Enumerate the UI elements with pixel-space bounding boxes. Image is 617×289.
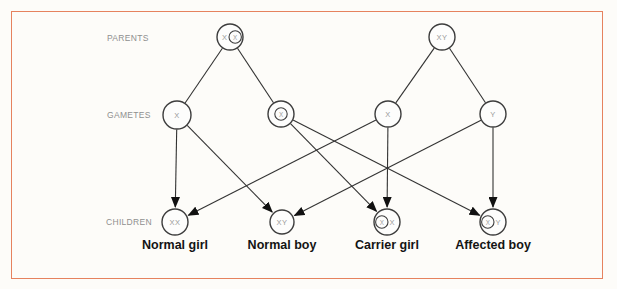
parent-to-gamete-line	[238, 48, 274, 102]
mother-circle	[217, 24, 243, 50]
child-caption: Normal boy	[248, 238, 317, 252]
node-gamete-x-father: X	[375, 101, 401, 127]
gamete-to-child-arrow	[187, 125, 272, 212]
allele-label: X	[385, 110, 390, 119]
pedigree-diagram-svg: XXXYXXXYXXNormal girlXYNormal boyXXCarri…	[0, 0, 617, 289]
allele-label: X	[174, 111, 179, 120]
gamete-to-child-arrow	[188, 120, 376, 215]
allele-label: X	[389, 218, 394, 227]
allele-label: Y	[495, 218, 500, 227]
gamete-to-child-arrow	[293, 120, 480, 215]
child-affected-boy-circle	[480, 209, 506, 235]
gamete-to-child-arrow	[291, 124, 377, 212]
row-label-gametes: GAMETES	[107, 110, 151, 120]
allele-label: XY	[437, 33, 448, 42]
node-gamete-xcarrier-mother: X	[268, 101, 294, 127]
allele-label: X	[222, 33, 227, 42]
gamete-to-child-arrow	[387, 128, 388, 208]
node-gamete-y-father: Y	[480, 101, 506, 127]
node-mother: XX	[217, 24, 243, 50]
row-label-parents: PARENTS	[107, 33, 149, 43]
allele-label: Y	[490, 110, 495, 119]
allele-label: XY	[277, 218, 288, 227]
scanned-figure-page: XXXYXXXYXXNormal girlXYNormal boyXXCarri…	[0, 0, 617, 289]
parent-to-gamete-line	[450, 48, 486, 102]
node-child-normal-boy: XYNormal boy	[248, 210, 317, 252]
child-caption: Affected boy	[455, 238, 531, 252]
node-father: XY	[429, 24, 455, 50]
node-gamete-x-mother: X	[163, 101, 191, 129]
gamete-to-child-arrow	[175, 130, 176, 208]
parent-to-gamete-line	[396, 48, 434, 103]
child-caption: Carrier girl	[355, 238, 419, 252]
child-carrier-girl-circle	[374, 209, 400, 235]
child-caption: Normal girl	[142, 238, 208, 252]
node-child-normal-girl: XXNormal girl	[142, 209, 208, 252]
allele-label: XX	[170, 218, 181, 227]
parent-to-gamete-line	[185, 48, 222, 103]
row-label-children: CHILDREN	[106, 217, 152, 227]
node-child-affected-boy: XYAffected boy	[455, 209, 531, 252]
node-child-carrier-girl: XXCarrier girl	[355, 209, 419, 252]
